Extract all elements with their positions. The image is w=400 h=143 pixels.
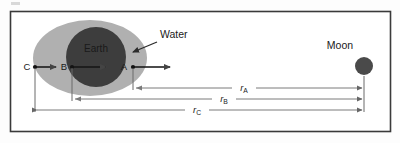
moon-label: Moon xyxy=(327,39,353,51)
point-c-label: C xyxy=(24,61,31,72)
ra-subscript: A xyxy=(243,87,248,94)
moon-circle xyxy=(355,57,373,75)
rb-subscript: B xyxy=(223,98,228,105)
scan-artifact xyxy=(11,2,20,5)
water-label: Water xyxy=(160,28,188,40)
point-b-label: B xyxy=(61,61,67,72)
figure-canvas: Earth C B A Water Moon rA xyxy=(0,0,400,143)
point-a-label: A xyxy=(121,61,128,72)
earth-label: Earth xyxy=(84,43,108,54)
tidal-force-diagram: Earth C B A Water Moon rA xyxy=(0,0,400,143)
rc-subscript: C xyxy=(196,109,201,116)
earth-circle xyxy=(66,27,126,87)
